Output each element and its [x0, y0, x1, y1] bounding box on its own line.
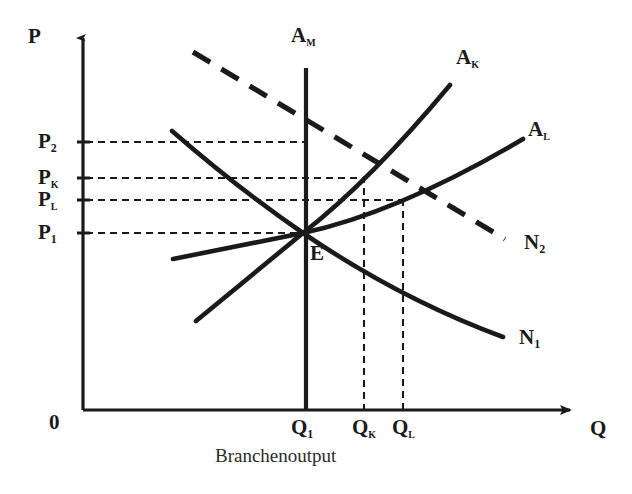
price-label-PL-sub: L	[51, 201, 58, 212]
curve-label-AM-base: A	[291, 23, 306, 47]
curve-label-AL-sub: L	[543, 131, 550, 142]
quantity-label-QK: QK	[352, 417, 376, 438]
quantity-label-QL-base: Q	[392, 415, 408, 439]
price-label-PL: PL	[38, 189, 58, 210]
curve-AK	[196, 85, 450, 321]
quantity-label-Q1-base: Q	[291, 415, 307, 439]
curve-N2	[193, 52, 505, 239]
price-label-P1: P1	[38, 222, 57, 243]
curve-label-N2-sub: 2	[539, 242, 545, 256]
curve-label-AK-base: A	[456, 45, 471, 69]
vertical-reference-lines	[364, 176, 403, 409]
price-label-P1-base: P	[38, 220, 51, 244]
curve-label-AM-sub: M	[306, 37, 315, 48]
price-label-P2-sub: 2	[51, 141, 57, 155]
curve-label-N1-sub: 1	[534, 337, 540, 351]
quantity-label-QK-base: Q	[352, 415, 368, 439]
price-label-P2: P2	[38, 131, 57, 152]
curve-label-AM: AM	[291, 25, 316, 46]
point-label-E: E	[310, 243, 324, 264]
curve-label-N2: N2	[524, 232, 545, 253]
quantity-label-QL-sub: L	[408, 429, 415, 440]
curve-label-AL-base: A	[528, 117, 543, 141]
curve-AL	[173, 139, 523, 259]
curve-label-AK-sub: K	[471, 59, 479, 70]
price-label-PK-base: P	[38, 165, 51, 189]
x-axis-label: Q	[590, 418, 606, 439]
quantity-label-QK-sub: K	[368, 429, 376, 440]
figure-canvas: P Q 0 P2 PK PL P1 Q1 QK QL AM AK AL N2 N…	[0, 0, 632, 494]
curve-label-AL: AL	[528, 119, 550, 140]
curve-label-AK: AK	[456, 47, 479, 68]
price-label-P1-sub: 1	[51, 232, 57, 246]
quantity-label-Q1: Q1	[291, 417, 313, 438]
figure-caption: Branchenoutput	[215, 445, 336, 467]
y-axis-label: P	[28, 26, 41, 47]
curve-label-N1: N1	[519, 327, 540, 348]
price-label-PL-base: P	[38, 187, 51, 211]
curve-label-N1-base: N	[519, 325, 534, 349]
price-label-PK: PK	[38, 167, 59, 188]
quantity-label-QL: QL	[392, 417, 415, 438]
curve-label-N2-base: N	[524, 230, 539, 254]
quantity-label-Q1-sub: 1	[307, 427, 313, 441]
price-label-P2-base: P	[38, 129, 51, 153]
axes	[83, 38, 570, 410]
origin-label: 0	[49, 412, 60, 433]
